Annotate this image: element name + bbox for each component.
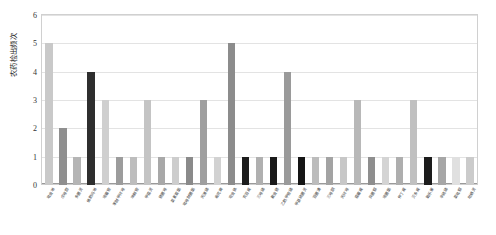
bar[interactable] [186,157,193,185]
x-axis-label: 霜霉威 [353,186,364,200]
bar[interactable] [73,157,80,185]
bar[interactable] [368,157,375,185]
bar[interactable] [466,157,473,185]
y-tick-label: 2 [11,124,37,133]
bar-slot[interactable] [42,15,56,185]
bar-chart: 农药检出频次 0123456 吡虫啉戊唑醇多菌灵烯酰吗啉嘧霉胺苯醚甲环唑咪鲜胺甲… [0,0,496,235]
bar[interactable] [214,157,221,185]
x-axis-label: 嘧菌酯 [381,186,392,200]
bar-slot[interactable] [421,15,435,185]
bar[interactable] [87,72,94,185]
bar[interactable] [270,157,277,185]
bar-slot[interactable] [463,15,477,185]
y-tick-label: 4 [11,67,37,76]
bar[interactable] [102,100,109,185]
bar-slot[interactable] [224,15,238,185]
x-axis-label: 甲基硫菌灵 [293,186,308,207]
bar-slot[interactable] [365,15,379,185]
bar[interactable] [354,100,361,185]
bar[interactable] [158,157,165,185]
bar-slot[interactable] [379,15,393,185]
bar-slot[interactable] [309,15,323,185]
bar-slot[interactable] [98,15,112,185]
bar[interactable] [326,157,333,185]
bar-slot[interactable] [238,15,252,185]
bar[interactable] [340,157,347,185]
bar-slot[interactable] [295,15,309,185]
bar-series [42,15,477,185]
x-axis-label: 甲霜灵 [143,186,154,200]
bar-slot[interactable] [182,15,196,185]
x-axis-label: 毒死蜱 [213,186,224,200]
x-axis-label: 嘧霉胺 [101,186,112,200]
bar-slot[interactable] [337,15,351,185]
bar-slot[interactable] [140,15,154,185]
x-axis-label: 氟虫腈 [269,186,280,200]
x-axis-label: 氧乐果 [423,186,434,200]
x-axis-label: 辛硫磷 [437,186,448,200]
x-axis-label: 丙环唑 [339,186,350,200]
x-axis-label: 百菌清 [311,186,322,200]
bar[interactable] [424,157,431,185]
bar-slot[interactable] [281,15,295,185]
bar[interactable] [116,157,123,185]
x-axis-label: 啶虫脒 [227,186,238,200]
bar[interactable] [452,157,459,185]
x-axis-label: 吡虫啉 [45,186,56,200]
bar[interactable] [410,100,417,185]
x-axis-label: 异菌脲 [367,186,378,200]
bar[interactable] [172,157,179,185]
bar-slot[interactable] [168,15,182,185]
x-axis-label: 多菌灵 [73,186,84,200]
bar[interactable] [256,157,263,185]
x-axis-label: 仲丁威 [395,186,406,200]
x-axis-label: 克百威 [241,186,252,200]
bar-slot[interactable] [393,15,407,185]
y-axis-ticks: 0123456 [9,14,37,185]
bar[interactable] [396,157,403,185]
x-axis-label: 吡唑醚菌酯 [181,186,196,207]
x-axis-label: 苯醚甲环唑 [111,186,126,207]
bar[interactable] [298,157,305,185]
bar-slot[interactable] [210,15,224,185]
x-axis-label: 氯吡脲 [451,186,462,200]
bar-slot[interactable] [435,15,449,185]
y-tick-label: 5 [11,39,37,48]
bar-slot[interactable] [84,15,98,185]
bar[interactable] [59,128,66,185]
x-axis-label: 丙溴磷 [199,186,210,200]
x-axis-label: 氯氰菊酯 [169,186,182,203]
x-axis-label: 三唑磷 [255,186,266,200]
bar[interactable] [228,43,235,185]
bar-slot[interactable] [126,15,140,185]
bar[interactable] [144,100,151,185]
y-tick-label: 6 [11,11,37,20]
bar-slot[interactable] [196,15,210,185]
bar-slot[interactable] [449,15,463,185]
bar-slot[interactable] [154,15,168,185]
x-axis-category-labels: 吡虫啉戊唑醇多菌灵烯酰吗啉嘧霉胺苯醚甲环唑咪鲜胺甲霜灵腈菌唑氯氰菊酯吡唑醚菌酯丙… [42,186,477,235]
bar-slot[interactable] [56,15,70,185]
bar[interactable] [130,157,137,185]
bar[interactable] [242,157,249,185]
bar-slot[interactable] [351,15,365,185]
bar[interactable] [312,157,319,185]
x-axis-label: 咪鲜胺 [129,186,140,200]
bar-slot[interactable] [267,15,281,185]
bar[interactable] [200,100,207,185]
y-tick-label: 3 [11,96,37,105]
bar[interactable] [45,43,52,185]
bar[interactable] [382,157,389,185]
y-tick-label: 0 [11,181,37,190]
bar[interactable] [284,72,291,185]
bar-slot[interactable] [112,15,126,185]
bar-slot[interactable] [407,15,421,185]
x-axis-label: 哒螨灵 [466,186,477,200]
x-axis-label: 烯酰吗啉 [85,186,98,203]
x-axis-label: 灭多威 [409,186,420,200]
bar-slot[interactable] [70,15,84,185]
bar-slot[interactable] [252,15,266,185]
bar-slot[interactable] [323,15,337,185]
y-tick-label: 1 [11,152,37,161]
bar[interactable] [438,157,445,185]
